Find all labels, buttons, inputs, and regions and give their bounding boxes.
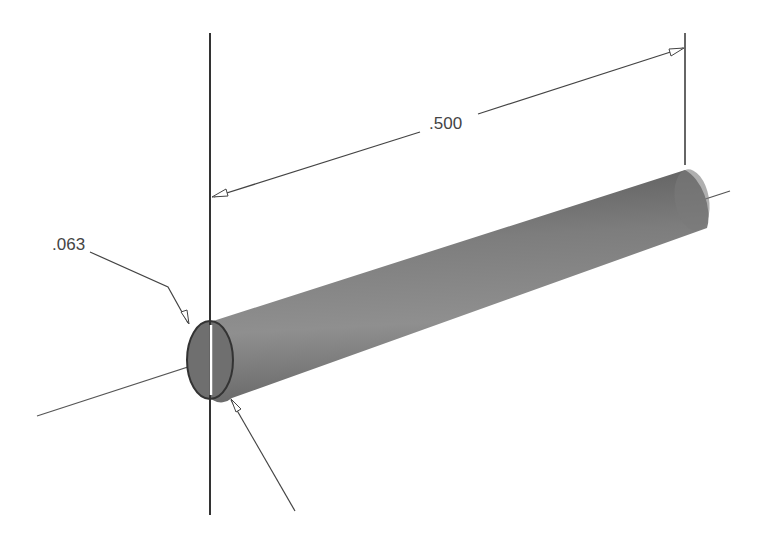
- diameter-arrowhead-icon: [181, 310, 189, 324]
- length-dimension-line-right: [478, 48, 683, 114]
- diameter-dimension-label: .063: [52, 235, 85, 254]
- lower-arrowhead-icon: [231, 399, 241, 412]
- lower-leader-line: [231, 400, 295, 511]
- arrowhead-left-icon: [212, 189, 228, 197]
- arrowhead-right-icon: [669, 48, 684, 56]
- length-dimension-line-left: [214, 132, 420, 197]
- drawing-canvas: .500 .063: [0, 0, 760, 542]
- diameter-leader-line: [90, 252, 188, 323]
- length-dimension-label: .500: [429, 114, 462, 133]
- cylinder-body: [196, 170, 708, 402]
